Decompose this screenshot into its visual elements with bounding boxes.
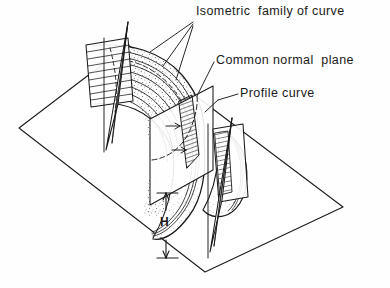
isometric-curve-diagram <box>0 0 390 288</box>
label-common-normal-plane: Common normal plane <box>216 53 354 67</box>
label-profile-curve: Profile curve <box>240 86 315 100</box>
label-isometric-family: Isometric family of curve <box>196 4 345 18</box>
label-height-dimension: H <box>160 215 169 229</box>
